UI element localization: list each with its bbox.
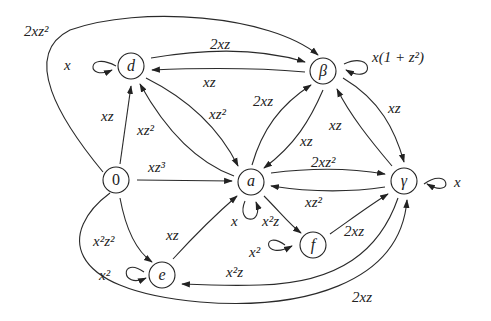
edge-beta-gamma bbox=[343, 78, 404, 162]
edge-beta-loop bbox=[344, 61, 368, 74]
edge-label-zero-gamma: 2xz bbox=[352, 290, 372, 305]
node-label-a: a bbox=[236, 173, 266, 189]
edge-d-loop bbox=[93, 61, 116, 72]
edge-label-zero-a: xz³ bbox=[148, 160, 165, 175]
edge-d-a bbox=[146, 78, 238, 166]
edge-label-gamma-beta: xz bbox=[329, 118, 342, 133]
edge-label-beta-gamma: xz bbox=[388, 101, 401, 116]
edge-label-f-loop: x² bbox=[249, 245, 260, 260]
edge-beta-d bbox=[152, 69, 305, 72]
edge-d-beta bbox=[151, 51, 305, 62]
edge-label-beta-loop: x(1 + z²) bbox=[372, 50, 424, 65]
node-label-zero: 0 bbox=[101, 172, 131, 188]
node-label-gamma: γ bbox=[389, 173, 419, 189]
edge-label-zero-e: x²z² bbox=[93, 234, 115, 249]
edge-gamma-a bbox=[271, 186, 385, 191]
edge-label-a-beta: 2xz bbox=[253, 94, 273, 109]
edge-label-a-loop: x bbox=[231, 214, 238, 229]
state-diagram: d β 0 a γ f e 2xz² x 2xz xz x(1 + z²) xz… bbox=[0, 0, 491, 321]
edge-label-beta-a: xz bbox=[300, 134, 313, 149]
edge-label-f-gamma: 2xz bbox=[344, 224, 364, 239]
edge-label-d-beta: 2xz bbox=[210, 37, 230, 52]
node-label-d: d bbox=[116, 58, 146, 74]
edge-label-gamma-loop: x bbox=[454, 175, 461, 190]
node-label-e: e bbox=[147, 267, 177, 283]
edge-label-beta-d: xz bbox=[203, 75, 216, 90]
edge-zero-d bbox=[120, 86, 131, 164]
edge-label-gamma-e: x²z bbox=[226, 265, 243, 280]
edge-label-a-d: xz² bbox=[137, 123, 154, 138]
node-label-beta: β bbox=[308, 63, 338, 79]
edge-gamma-beta bbox=[337, 89, 392, 166]
edge-label-e-loop: x² bbox=[99, 268, 110, 283]
edge-label-d-a: xz² bbox=[209, 107, 226, 122]
edge-gamma-loop bbox=[424, 178, 446, 188]
edge-a-gamma bbox=[271, 169, 385, 174]
edge-zero-e bbox=[120, 198, 152, 262]
edge-f-loop bbox=[269, 240, 292, 250]
edge-label-a-f: x²z bbox=[262, 214, 279, 229]
edge-e-loop bbox=[126, 267, 146, 280]
edge-label-zero-d: xz bbox=[101, 109, 114, 124]
edge-label-zero-beta: 2xz² bbox=[24, 24, 49, 39]
edge-label-gamma-a: xz² bbox=[305, 195, 322, 210]
node-label-f: f bbox=[298, 237, 328, 253]
edge-label-e-a: xz bbox=[166, 228, 179, 243]
edge-a-loop bbox=[243, 201, 258, 219]
edge-label-d-loop: x bbox=[64, 58, 71, 73]
edge-label-a-gamma: 2xz² bbox=[311, 155, 336, 170]
edge-zero-a bbox=[137, 180, 232, 181]
edge-e-a bbox=[173, 196, 237, 259]
edge-gamma-e bbox=[182, 198, 398, 285]
edge-zero-beta bbox=[47, 16, 318, 172]
